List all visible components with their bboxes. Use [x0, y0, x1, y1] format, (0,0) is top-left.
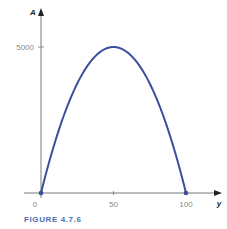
y-tick-label: 5000: [16, 43, 34, 52]
y-axis-arrow: [38, 8, 44, 16]
x-axis-arrow: [214, 190, 222, 196]
chart: 0501005000yA: [0, 0, 227, 229]
x-axis-label: y: [216, 199, 222, 208]
y-axis-label: A: [29, 8, 36, 17]
figure-caption: FIGURE 4.7.6: [24, 215, 81, 224]
x-tick-label: 50: [109, 200, 118, 209]
x-tick-label: 0: [33, 200, 38, 209]
endpoint-dot: [184, 191, 189, 196]
endpoint-dot: [39, 191, 44, 196]
tick-labels: 0501005000yA: [16, 8, 222, 209]
x-tick-label: 100: [179, 200, 193, 209]
series-line: [41, 47, 186, 193]
axes: [24, 8, 222, 198]
